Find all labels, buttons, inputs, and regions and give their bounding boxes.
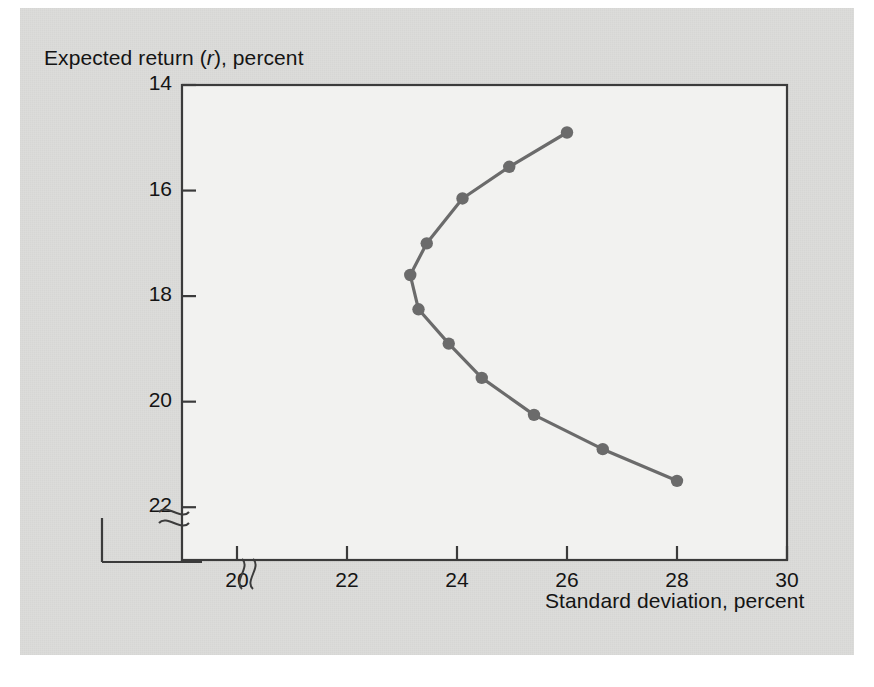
data-point [456, 192, 468, 204]
chart-figure: Expected return (r), percent Standard de… [0, 0, 874, 687]
plot-area-background [182, 85, 787, 560]
data-point [421, 237, 433, 249]
data-point [412, 303, 424, 315]
data-point [404, 269, 416, 281]
data-point [561, 126, 573, 138]
data-point [671, 475, 683, 487]
plot-canvas [0, 0, 874, 687]
data-point [597, 443, 609, 455]
data-point [443, 337, 455, 349]
data-point [528, 409, 540, 421]
x-axis-break-squiggle-icon [239, 559, 255, 589]
data-point [503, 161, 515, 173]
data-point [476, 372, 488, 384]
